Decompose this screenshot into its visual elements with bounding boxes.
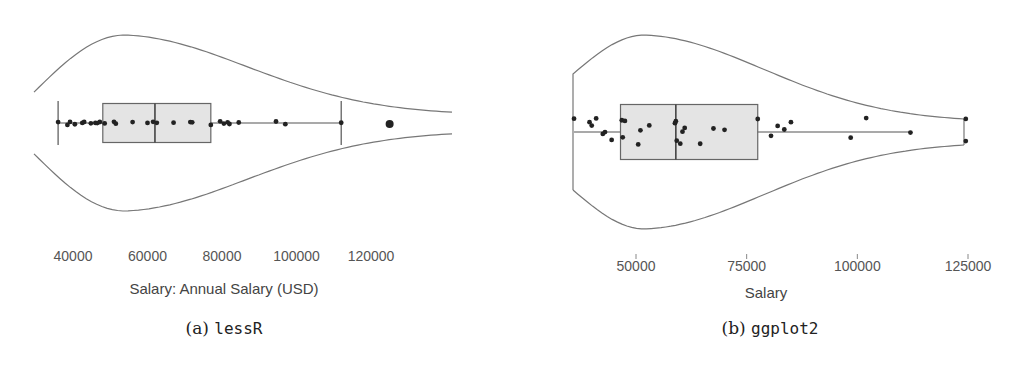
data-point	[572, 116, 577, 121]
data-point	[208, 123, 213, 128]
x-tick-label: 100000	[834, 258, 881, 274]
data-point	[594, 116, 599, 121]
data-point	[647, 123, 652, 128]
data-point	[589, 123, 594, 128]
data-point	[963, 116, 968, 121]
x-axis-title: Salary	[745, 284, 788, 301]
x-tick-label: 120000	[348, 248, 395, 264]
violin-lower-outline	[34, 134, 452, 211]
data-point	[673, 119, 678, 124]
figure-caption-a: (a) lessR	[186, 318, 263, 338]
data-point	[603, 130, 608, 135]
x-tick-label: 60000	[128, 248, 167, 264]
x-tick-label: 40000	[54, 248, 93, 264]
data-point	[698, 141, 703, 146]
data-point	[908, 130, 913, 135]
data-point	[72, 122, 77, 127]
x-tick-label: 80000	[203, 248, 242, 264]
data-point	[190, 120, 195, 125]
data-point	[97, 120, 102, 125]
x-tick-label: 125000	[945, 258, 992, 274]
data-point	[274, 119, 279, 124]
panel-lessr: 400006000080000100000120000 Salary: Annu…	[0, 0, 480, 368]
data-point	[775, 123, 780, 128]
data-point	[236, 120, 241, 125]
data-point	[102, 121, 107, 126]
x-tick-label: 50000	[617, 258, 656, 274]
data-point	[722, 127, 727, 132]
data-point	[154, 120, 159, 125]
data-point	[711, 126, 716, 131]
data-point	[636, 142, 641, 147]
data-point	[963, 139, 968, 144]
data-point	[609, 138, 614, 143]
violin-plot-ggplot2	[530, 0, 1015, 368]
panel-ggplot2: 5000075000100000125000 Salary (b) ggplot…	[530, 0, 1015, 368]
caption-label: (a)	[186, 318, 209, 338]
data-point	[56, 120, 61, 125]
data-point	[145, 120, 150, 125]
data-point	[769, 133, 774, 138]
data-point	[130, 120, 135, 125]
x-tick-label: 75000	[727, 258, 766, 274]
data-point	[682, 126, 687, 131]
violin-upper-outline	[34, 35, 452, 112]
data-point	[848, 135, 853, 140]
data-point	[68, 120, 73, 125]
data-point	[755, 117, 760, 122]
data-point	[782, 127, 787, 132]
data-point	[171, 120, 176, 125]
outlier-point	[386, 120, 394, 128]
caption-package: ggplot2	[751, 319, 818, 338]
data-point	[620, 135, 625, 140]
data-point	[283, 122, 288, 127]
data-point	[789, 120, 794, 125]
data-point	[623, 119, 628, 124]
data-point	[82, 120, 87, 125]
data-point	[88, 121, 93, 126]
data-point	[113, 121, 118, 126]
data-point	[638, 128, 643, 133]
violin-plot-lessr	[0, 0, 480, 368]
data-point	[864, 116, 869, 121]
data-point	[227, 122, 232, 127]
figure-caption-b: (b) ggplot2	[722, 318, 819, 338]
x-tick-label: 100000	[273, 248, 320, 264]
x-axis-title: Salary: Annual Salary (USD)	[129, 280, 318, 297]
data-point	[678, 141, 683, 146]
caption-package: lessR	[214, 319, 262, 338]
data-point	[339, 120, 344, 125]
caption-label: (b)	[722, 318, 746, 338]
